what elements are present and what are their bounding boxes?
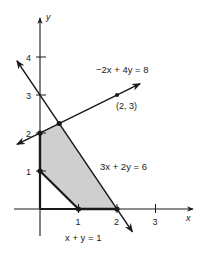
x-axis-label: x bbox=[185, 213, 191, 223]
x-tick-label: 2 bbox=[114, 217, 119, 227]
vertex-point bbox=[37, 168, 42, 173]
x-tick-label: 3 bbox=[153, 217, 158, 227]
vertex-point bbox=[57, 121, 62, 126]
equation-label-3x-2y-6: 3x + 2y = 6 bbox=[100, 161, 147, 172]
line-neg2x-plus-4y-eq-8 bbox=[17, 84, 140, 145]
point-label-2-3: (2, 3) bbox=[116, 101, 137, 111]
x-tick-label: 1 bbox=[76, 217, 81, 227]
vertex-point bbox=[76, 206, 81, 211]
vertex-point bbox=[37, 130, 42, 135]
vertex-point bbox=[114, 206, 119, 211]
y-axis-label: y bbox=[45, 12, 51, 22]
y-tick-label: 1 bbox=[26, 167, 31, 177]
equation-label-x-y-1: x + y = 1 bbox=[65, 232, 101, 243]
y-tick-label: 4 bbox=[26, 53, 31, 63]
lp-diagram: 1231234 y x −2x + 4y = 8 3x + 2y = 6 x +… bbox=[0, 0, 207, 254]
vertex-point bbox=[115, 93, 119, 97]
y-tick-label: 3 bbox=[26, 91, 31, 101]
equation-label-neg2x-4y-8: −2x + 4y = 8 bbox=[96, 64, 149, 75]
